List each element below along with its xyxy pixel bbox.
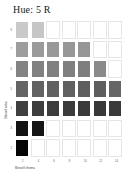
swatch-cell — [46, 80, 60, 98]
swatch-cell — [46, 41, 60, 59]
swatch-cell — [46, 120, 60, 138]
swatch-cell — [15, 139, 29, 157]
swatch-cell — [15, 120, 29, 138]
x-tick-label: 12 — [99, 160, 102, 163]
y-tick-label: 3 — [11, 127, 12, 130]
swatch-cell — [93, 120, 107, 138]
swatch-cell — [62, 120, 76, 138]
swatch-cell — [46, 60, 60, 78]
swatch-cell — [15, 100, 29, 118]
swatch-cell — [31, 41, 45, 59]
swatch-cell — [62, 41, 76, 59]
swatch-cell — [77, 80, 91, 98]
swatch-row — [15, 100, 124, 120]
swatch-cell — [46, 139, 60, 157]
y-tick-label: 8 — [11, 29, 12, 32]
x-tick-label: 6 — [53, 160, 54, 163]
swatch-cell — [62, 60, 76, 78]
swatch-cell — [93, 80, 107, 98]
swatch-cell — [108, 120, 122, 138]
swatch-cell — [93, 60, 107, 78]
swatch-cell — [77, 41, 91, 59]
swatch-grid — [15, 21, 124, 159]
y-axis-title: Munsell value — [4, 86, 8, 134]
swatch-cell — [93, 41, 107, 59]
x-tick-label: 4 — [38, 160, 39, 163]
swatch-cell — [108, 80, 122, 98]
swatch-cell — [46, 100, 60, 118]
swatch-cell — [15, 60, 29, 78]
y-tick-label: 2 — [11, 147, 12, 150]
swatch-cell — [77, 120, 91, 138]
swatch-cell — [108, 139, 122, 157]
x-tick-label: 8 — [69, 160, 70, 163]
swatch-cell — [77, 21, 91, 39]
swatch-cell — [108, 60, 122, 78]
swatch-row — [15, 139, 124, 159]
swatch-row — [15, 80, 124, 100]
swatch-cell — [62, 139, 76, 157]
x-tick-label: 10 — [84, 160, 87, 163]
swatch-row — [15, 60, 124, 80]
swatch-cell — [108, 41, 122, 59]
swatch-cell — [15, 21, 29, 39]
swatch-row — [15, 41, 124, 61]
swatch-cell — [77, 139, 91, 157]
swatch-cell — [108, 21, 122, 39]
swatch-cell — [31, 120, 45, 138]
swatch-cell — [15, 80, 29, 98]
swatch-cell — [93, 139, 107, 157]
swatch-cell — [31, 80, 45, 98]
y-tick-label: 7 — [11, 48, 12, 51]
swatch-cell — [31, 139, 45, 157]
x-tick-label: 2 — [22, 160, 23, 163]
swatch-row — [15, 21, 124, 41]
swatch-cell — [108, 100, 122, 118]
swatch-cell — [93, 21, 107, 39]
page-title: Hue: 5 R — [13, 4, 51, 16]
y-tick-label: 6 — [11, 68, 12, 71]
swatch-cell — [46, 21, 60, 39]
swatch-cell — [31, 21, 45, 39]
swatch-cell — [62, 80, 76, 98]
swatch-cell — [62, 21, 76, 39]
munsell-hue-chart: Hue: 5 R 8 7 6 5 4 3 2 — [0, 0, 125, 178]
swatch-cell — [77, 100, 91, 118]
x-axis-title: Munsell chroma — [15, 166, 124, 170]
swatch-cell — [31, 60, 45, 78]
swatch-cell — [77, 60, 91, 78]
swatch-cell — [15, 41, 29, 59]
swatch-cell — [31, 100, 45, 118]
y-tick-label: 5 — [11, 88, 12, 91]
swatch-cell — [93, 100, 107, 118]
y-tick-label: 4 — [11, 107, 12, 110]
swatch-row — [15, 120, 124, 140]
x-tick-label: 14 — [115, 160, 118, 163]
swatch-cell — [62, 100, 76, 118]
